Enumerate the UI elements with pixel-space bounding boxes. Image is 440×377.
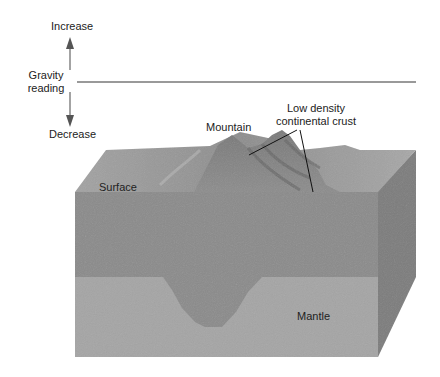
gravity-reading-line2: reading [26, 82, 66, 95]
crust-label: Low density continental crust [268, 102, 364, 128]
surface-label: Surface [99, 181, 137, 194]
crust-block [75, 130, 416, 357]
mantle-label: Mantle [297, 310, 330, 323]
crust-label-line2: continental crust [268, 115, 364, 128]
decrease-arrow-head [66, 115, 74, 127]
crust-label-line1: Low density [268, 102, 364, 115]
mountain-label: Mountain [206, 121, 251, 134]
decrease-label: Decrease [49, 128, 96, 141]
gravity-reading-line1: Gravity [26, 69, 66, 82]
diagram-canvas [0, 0, 440, 377]
gravity-reading-label: Gravity reading [26, 69, 66, 95]
increase-label: Increase [51, 20, 93, 33]
increase-arrow-head [66, 37, 74, 49]
